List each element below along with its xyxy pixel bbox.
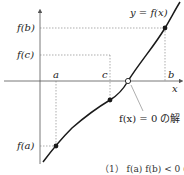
function-curve (43, 2, 180, 162)
point-c (108, 98, 113, 103)
point-b (163, 26, 168, 31)
caption: （1） f(a) f(b) < 0 の場合 (100, 163, 184, 174)
x-label-a: a (53, 69, 59, 80)
x-label-c: c (102, 69, 108, 80)
x-label-b: b (168, 69, 174, 80)
intermediate-value-theorem-diagram: y = f(x) f(b) f(c) f(a) a c b x f(x) = 0… (0, 0, 184, 175)
curve-label: y = f(x) (129, 7, 168, 18)
root-pointer-line (131, 85, 143, 111)
root-point (125, 78, 130, 83)
point-a (54, 144, 59, 149)
guide-lines (40, 28, 165, 146)
root-annotation: f(x) = 0 の解 (119, 112, 180, 124)
x-axis-label: x (172, 83, 178, 94)
y-label-fc: f(c) (16, 49, 34, 60)
y-label-fb: f(b) (16, 22, 35, 33)
y-label-fa: f(a) (16, 140, 35, 151)
